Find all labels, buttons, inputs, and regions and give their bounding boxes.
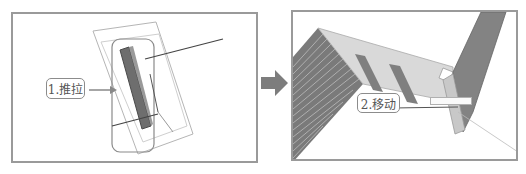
step-1-push-pull-callout: 1.推拉	[46, 78, 85, 99]
step-2-screenshot-panel	[291, 10, 518, 161]
snap-tooltip	[430, 97, 472, 105]
step-1-label: 1.推拉	[48, 80, 83, 97]
right-arrow-icon	[261, 70, 289, 96]
step-2-label: 2.移动	[361, 95, 396, 112]
move-scene-illustration	[293, 12, 518, 161]
figure-caption	[210, 165, 330, 174]
step-2-move-callout: 2.移动	[357, 93, 400, 113]
